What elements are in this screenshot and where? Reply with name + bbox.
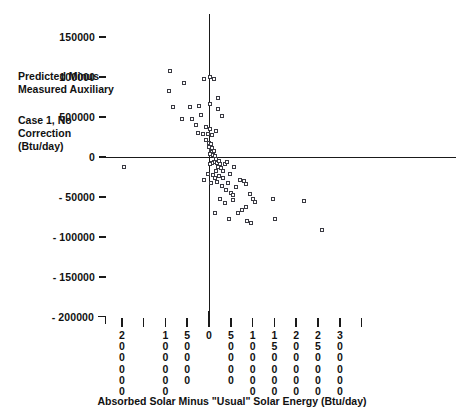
x-axis-tick-mark [208, 311, 210, 327]
x-axis-tick-label: 200000 [110, 330, 134, 397]
scatter-point [220, 114, 224, 118]
x-axis-tick-label: 0 [197, 330, 221, 341]
x-axis-tick-mark [274, 318, 276, 327]
scatter-point [196, 131, 200, 135]
x-axis-tick-label: 200000 [284, 330, 308, 397]
scatter-point [216, 107, 220, 111]
x-axis-tick-mark [339, 318, 341, 327]
y-axis-tick-mark [99, 116, 106, 118]
scatter-plot-figure: 1500001000005000000- 50000- 100000- 1500… [0, 0, 464, 414]
y-axis-tick-label: 150000 [59, 31, 95, 43]
y-axis-title-line-1: Predicted Minus [18, 70, 114, 83]
scatter-point [214, 129, 218, 133]
x-axis-tick-label: 100000 [153, 330, 177, 397]
scatter-point [202, 77, 206, 81]
x-axis-tick-label: 250000 [306, 330, 330, 397]
y-axis-tick-mark [98, 316, 106, 324]
x-axis-tick-label: 100000 [241, 330, 265, 397]
y-axis-title-part2: Case 1, No Correction (Btu/day) [18, 114, 72, 153]
y-axis-tick-label: 0 [89, 151, 95, 163]
scatter-point [302, 199, 306, 203]
scatter-point [201, 132, 205, 136]
y-axis-tick-label: - 100000 [53, 231, 95, 243]
x-axis-tick-mark [361, 318, 363, 327]
scatter-point [234, 185, 238, 189]
x-axis-tick-mark [143, 318, 145, 327]
x-axis-tick-3: 50000 [175, 318, 199, 386]
scatter-point [227, 217, 231, 221]
x-axis-tick-8: 200000 [284, 318, 308, 397]
x-axis-tick-label: 50000 [175, 330, 199, 386]
scatter-point [190, 117, 194, 121]
scatter-point [231, 193, 235, 197]
x-axis-tick-mark [295, 318, 297, 327]
scatter-point [202, 178, 206, 182]
y-axis-tick-label: - 50000 [59, 191, 95, 203]
scatter-point [244, 205, 248, 209]
x-axis-tick-label: 150000 [262, 330, 286, 397]
x-axis-tick-mark [230, 318, 232, 327]
x-axis-tick-9: 250000 [306, 318, 330, 397]
x-axis-line [100, 157, 456, 158]
y-axis-tick-mark [99, 276, 106, 278]
scatter-point [213, 211, 217, 215]
scatter-point [221, 176, 225, 180]
x-axis-tick-11 [350, 318, 374, 330]
scatter-point [199, 113, 203, 117]
x-axis-tick-mark [186, 318, 188, 327]
y-axis-tick-7: - 200000 [0, 311, 108, 323]
scatter-point [248, 192, 252, 196]
y-axis-tick-mark [99, 196, 106, 198]
scatter-point [208, 102, 212, 106]
scatter-point [188, 105, 192, 109]
y-axis-tick-0: 150000 [0, 31, 108, 43]
y-axis-tick-label: - 200000 [52, 311, 94, 323]
x-axis-tick-mark [252, 318, 254, 327]
scatter-point [194, 123, 198, 127]
scatter-point [223, 201, 227, 205]
scatter-point [253, 200, 257, 204]
y-axis-title-line-4: Correction [18, 127, 72, 140]
y-axis-tick-6: - 150000 [0, 271, 108, 283]
x-axis-tick-4: 0 [197, 318, 221, 341]
scatter-point [212, 77, 216, 81]
x-axis-tick-6: 100000 [241, 318, 265, 397]
x-axis-tick-10: 300000 [328, 318, 352, 397]
scatter-point [273, 217, 277, 221]
scatter-point [225, 160, 229, 164]
x-axis-tick-7: 150000 [262, 318, 286, 397]
scatter-point [182, 81, 186, 85]
scatter-point [168, 69, 172, 73]
scatter-point [180, 117, 184, 121]
scatter-point [167, 89, 171, 93]
y-axis-title-line-3: Case 1, No [18, 114, 72, 127]
y-axis-line [209, 14, 210, 322]
x-axis-tick-5: 50000 [219, 318, 243, 386]
y-axis-tick-5: - 100000 [0, 231, 108, 243]
scatter-point [197, 104, 201, 108]
y-axis-title-line-5: (Btu/day) [18, 140, 72, 153]
scatter-point [171, 105, 175, 109]
scatter-point [221, 169, 225, 173]
y-axis-title-line-2: Measured Auxiliary [18, 83, 114, 96]
x-axis-tick-1 [132, 318, 156, 330]
y-axis-tick-4: - 50000 [0, 191, 108, 203]
scatter-point [244, 182, 248, 186]
scatter-point [218, 197, 222, 201]
x-axis-tick-0: 200000 [110, 318, 134, 397]
scatter-point [208, 162, 212, 166]
y-axis-tick-mark [99, 236, 106, 238]
x-axis-tick-label: 50000 [219, 330, 243, 386]
scatter-point [209, 181, 213, 185]
x-axis-tick-mark [165, 318, 167, 327]
scatter-point [228, 172, 232, 176]
scatter-point [231, 198, 235, 202]
y-axis-tick-label: - 150000 [53, 271, 95, 283]
scatter-point [240, 208, 244, 212]
scatter-point [208, 127, 212, 131]
y-axis-title-part1: Predicted Minus Measured Auxiliary [18, 70, 114, 96]
x-axis-tick-label: 300000 [328, 330, 352, 397]
x-axis-tick-mark [121, 318, 123, 327]
y-axis-tick-mark [99, 156, 106, 158]
scatter-point [206, 172, 210, 176]
